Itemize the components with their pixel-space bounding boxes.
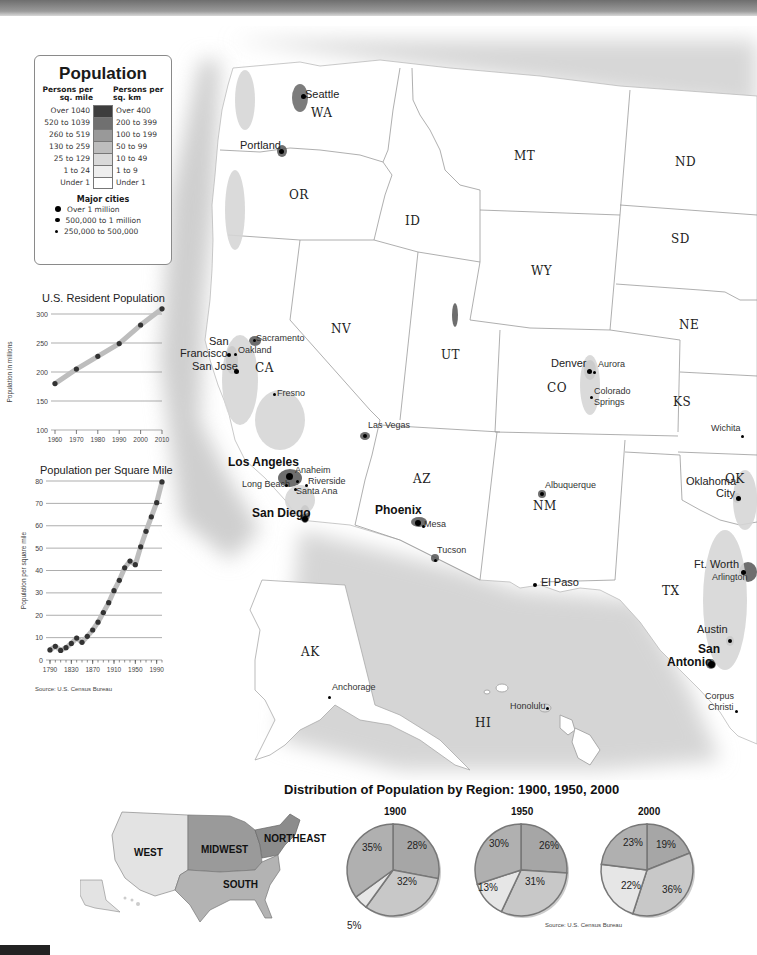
- source-note: Source: U.S. Census Bureau: [35, 686, 112, 692]
- city-dot-icon: [735, 710, 738, 713]
- pie-slice-label: 36%: [662, 884, 682, 895]
- city-dot-icon: [302, 516, 308, 522]
- svg-text:200: 200: [36, 369, 48, 376]
- state-label-or: OR: [289, 188, 309, 202]
- legend-row: 520 to 1039200 to 399: [41, 117, 165, 129]
- svg-text:100: 100: [36, 427, 48, 434]
- city-label: Oakland: [238, 346, 272, 355]
- legend-row: 1 to 241 to 9: [41, 165, 165, 177]
- city-dot-icon: [533, 583, 537, 587]
- city-label: Los Angeles: [228, 456, 299, 469]
- legend-km-value: Over 400: [113, 106, 151, 115]
- legend-mile-value: 130 to 259: [41, 142, 93, 151]
- city-label: Christi: [708, 703, 734, 712]
- legend-title: Population: [41, 64, 165, 84]
- legend-city-label: Over 1 million: [67, 205, 120, 214]
- city-label: Las Vegas: [368, 421, 410, 430]
- legend-km-value: 50 to 99: [113, 142, 147, 151]
- city-label: El Paso: [541, 577, 579, 589]
- legend-km-value: 10 to 49: [113, 154, 147, 163]
- state-label-nd: ND: [675, 155, 696, 169]
- region-label-south: SOUTH: [223, 879, 258, 890]
- city-dot-icon: [285, 484, 288, 487]
- legend-city-size: 500,000 to 1 million: [55, 215, 165, 226]
- city-dot-icon: [363, 434, 367, 438]
- legend-swatch: [93, 117, 113, 129]
- legend-col-km: Persons per sq. km: [113, 86, 165, 103]
- distribution-title: Distribution of Population by Region: 19…: [284, 782, 619, 797]
- city-dot-icon: [234, 353, 237, 356]
- state-label-ne: NE: [679, 318, 699, 332]
- svg-text:1950: 1950: [128, 666, 143, 673]
- state-label-co: CO: [547, 381, 567, 395]
- pie-slice-label: 19%: [656, 839, 676, 850]
- legend-cities-title: Major cities: [41, 195, 165, 204]
- legend-city-label: 250,000 to 500,000: [64, 227, 138, 236]
- state-label-ak: AK: [301, 645, 320, 659]
- city-label: Arlington: [712, 573, 748, 582]
- svg-text:0: 0: [39, 657, 43, 664]
- city-dot-icon: [55, 218, 60, 223]
- city-label: Antonio: [667, 656, 712, 669]
- svg-text:20: 20: [35, 612, 43, 619]
- city-label: Honolulu: [510, 702, 546, 711]
- city-dot-icon: [253, 339, 256, 342]
- pie-slice-label: 32%: [397, 876, 417, 887]
- state-label-ks: KS: [673, 395, 691, 409]
- city-label: Seattle: [305, 89, 339, 101]
- svg-text:2010: 2010: [155, 436, 170, 443]
- svg-text:1870: 1870: [85, 666, 100, 673]
- svg-text:60: 60: [35, 522, 43, 529]
- state-label-mt: MT: [514, 149, 535, 163]
- city-label: Sacramento: [256, 334, 305, 343]
- legend-city-label: 500,000 to 1 million: [66, 216, 141, 225]
- population-legend: Population Persons per sq. mile Persons …: [34, 55, 172, 265]
- city-label: Corpus: [705, 692, 734, 701]
- legend-city-size: Over 1 million: [55, 204, 165, 215]
- pie-slice-label: 35%: [362, 842, 382, 853]
- pie-chart-2000: [597, 820, 697, 920]
- svg-text:40: 40: [35, 567, 43, 574]
- pie-year-label: 1950: [511, 806, 533, 817]
- state-label-nm: NM: [533, 499, 557, 513]
- city-label: Fresno: [277, 389, 305, 398]
- region-label-midwest: MIDWEST: [201, 844, 248, 855]
- pie-slice-label: 30%: [489, 838, 509, 849]
- svg-text:1990: 1990: [112, 436, 127, 443]
- svg-text:70: 70: [35, 500, 43, 507]
- city-label: Portland: [240, 140, 281, 152]
- city-dot-icon: [55, 206, 61, 212]
- legend-row: 260 to 519100 to 199: [41, 129, 165, 141]
- legend-mile-value: Under 1: [41, 178, 93, 187]
- svg-text:1970: 1970: [69, 436, 84, 443]
- chart-title: Population per Square Mile: [40, 464, 173, 476]
- city-dot-icon: [540, 492, 544, 496]
- legend-city-sizes: Over 1 million500,000 to 1 million250,00…: [41, 204, 165, 237]
- legend-city-size: 250,000 to 500,000: [55, 226, 165, 237]
- pie-slice-label: 28%: [407, 840, 427, 851]
- city-dot-icon: [546, 707, 549, 710]
- resident-population-plot: 100150200250300196019701980199020002010P…: [0, 290, 175, 450]
- legend-rows: Over 1040Over 400520 to 1039200 to 39926…: [41, 105, 165, 189]
- city-dot-icon: [55, 230, 58, 233]
- legend-mile-value: Over 1040: [41, 106, 93, 115]
- city-label: City: [716, 488, 735, 500]
- svg-text:80: 80: [35, 478, 43, 485]
- state-label-sd: SD: [671, 232, 690, 246]
- city-dot-icon: [593, 371, 596, 374]
- legend-km-value: Under 1: [113, 178, 146, 187]
- city-label: Colorado: [594, 387, 631, 396]
- pie-slice-label: 22%: [621, 880, 641, 891]
- city-label: Austin: [697, 624, 728, 636]
- city-label: Santa Ana: [296, 487, 338, 496]
- svg-text:2000: 2000: [133, 436, 148, 443]
- city-dot-icon: [741, 435, 744, 438]
- pie-slice-label: 5%: [347, 920, 361, 931]
- legend-mile-value: 1 to 24: [41, 166, 93, 175]
- page-tab: [0, 945, 50, 955]
- svg-text:250: 250: [36, 340, 48, 347]
- legend-row: 25 to 12910 to 49: [41, 153, 165, 165]
- city-label: San Jose: [192, 361, 238, 373]
- city-dot-icon: [587, 369, 592, 374]
- svg-text:1790: 1790: [43, 666, 58, 673]
